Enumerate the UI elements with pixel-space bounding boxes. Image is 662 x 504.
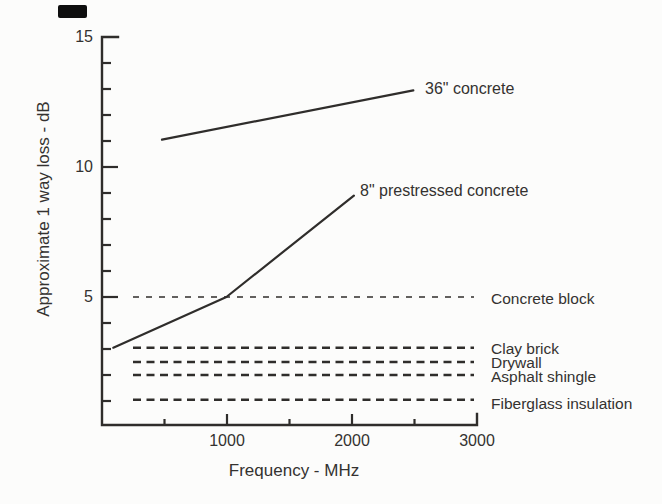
reference-label: Asphalt shingle: [491, 368, 596, 386]
series-line-36-concrete: [162, 90, 413, 139]
y-tick-label: 5: [57, 288, 93, 306]
series-label: 8" prestressed concrete: [360, 182, 528, 200]
axis-frame: [102, 37, 477, 425]
series-lines-group: [113, 90, 413, 347]
series-line-8-prestressed-concrete: [113, 196, 354, 348]
x-tick-label: 2000: [328, 432, 376, 450]
y-tick-label: 10: [57, 158, 93, 176]
chart-figure: Approximate 1 way loss - dB Frequency - …: [0, 0, 662, 504]
x-tick-label: 3000: [453, 432, 501, 450]
plot-canvas: [0, 0, 662, 504]
reference-label: Concrete block: [491, 290, 594, 308]
y-tick-label: 15: [57, 28, 93, 46]
series-label: 36" concrete: [425, 80, 514, 98]
x-axis-title: Frequency - MHz: [204, 461, 384, 481]
ticks-group: [102, 63, 415, 425]
x-tick-label: 1000: [203, 432, 251, 450]
reference-label: Fiberglass insulation: [491, 395, 632, 413]
y-axis-title: Approximate 1 way loss - dB: [34, 96, 54, 322]
axes-group: [102, 37, 477, 425]
reference-lines-group: [133, 297, 474, 400]
